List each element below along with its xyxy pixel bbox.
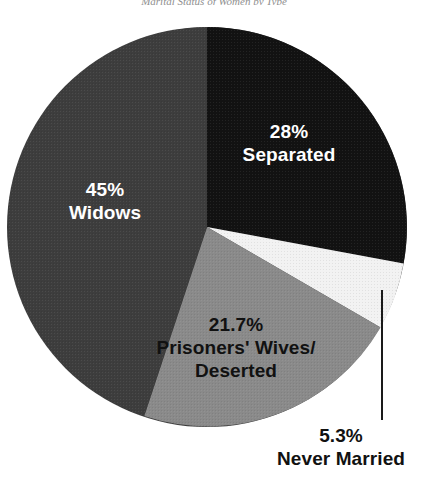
pie-chart-svg [0,0,428,477]
pie-chart: 28% Separated 45% Widows 21.7% Prisoners… [0,0,428,477]
pie-texture-overlay [7,27,407,427]
